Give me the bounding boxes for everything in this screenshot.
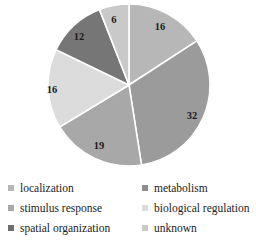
legend-swatch-icon: [8, 185, 14, 191]
slice-value-label: 6: [111, 15, 116, 26]
slice-value-label: 16: [47, 85, 58, 96]
legend-item-label: spatial organization: [20, 222, 110, 234]
legend-swatch-icon: [142, 225, 148, 231]
legend-item-label: biological regulation: [154, 202, 250, 214]
legend-item[interactable]: stimulus response: [0, 198, 128, 218]
slice-value-label: 19: [94, 141, 105, 152]
pie-chart-figure: 16321916126 localizationmetabolismstimul…: [0, 0, 256, 250]
legend-item[interactable]: biological regulation: [128, 198, 256, 218]
legend-swatch-icon: [8, 225, 14, 231]
slice-value-label: 16: [155, 22, 166, 33]
legend-item-label: metabolism: [154, 182, 208, 194]
pie-svg: [47, 3, 211, 167]
legend-item-label: unknown: [154, 222, 197, 234]
legend-item[interactable]: unknown: [128, 218, 256, 238]
legend-swatch-icon: [142, 185, 148, 191]
legend-item-label: localization: [20, 182, 74, 194]
legend-swatch-icon: [142, 205, 148, 211]
legend-item-label: stimulus response: [20, 202, 102, 214]
slice-value-label: 32: [187, 111, 198, 122]
slice-value-label: 12: [74, 32, 85, 43]
legend-item[interactable]: spatial organization: [0, 218, 128, 238]
chart-legend: localizationmetabolismstimulus responseb…: [0, 178, 256, 244]
legend-swatch-icon: [8, 205, 14, 211]
legend-item[interactable]: metabolism: [128, 178, 256, 198]
legend-item[interactable]: localization: [0, 178, 128, 198]
pie-plot-area: 16321916126: [0, 0, 256, 172]
